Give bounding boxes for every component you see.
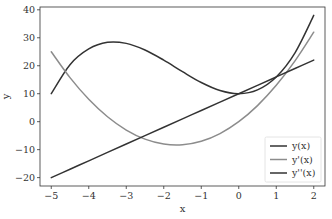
x-axis-ticks: −5−4−3−2−1012 <box>44 186 317 201</box>
y-tick-label: 0 <box>29 116 35 127</box>
x-tick-label: −4 <box>82 190 96 201</box>
x-tick-label: 0 <box>236 190 242 201</box>
x-tick-label: 1 <box>273 190 279 201</box>
x-tick-label: −1 <box>194 190 208 201</box>
line-chart: −5−4−3−2−1012 −20−10010203040 x y y(x)y'… <box>0 0 332 219</box>
y-tick-label: 20 <box>23 60 35 71</box>
series-y-prime-line <box>51 32 314 145</box>
y-tick-label: 30 <box>23 32 35 43</box>
x-tick-label: −2 <box>157 190 171 201</box>
x-tick-label: 2 <box>311 190 317 201</box>
series-y-line <box>51 15 314 93</box>
x-axis-label: x <box>180 203 186 214</box>
y-tick-label: 10 <box>23 88 35 99</box>
y-tick-label: −10 <box>15 144 35 155</box>
y-tick-label: 40 <box>23 4 35 15</box>
legend-label: y'(x) <box>291 154 313 165</box>
y-tick-label: −20 <box>15 172 35 183</box>
x-tick-label: −3 <box>119 190 133 201</box>
legend: y(x)y'(x)y''(x) <box>265 137 321 182</box>
y-axis-label: y <box>0 93 11 100</box>
y-axis-ticks: −20−10010203040 <box>15 4 40 183</box>
legend-label: y(x) <box>291 140 310 151</box>
x-tick-label: −5 <box>44 190 58 201</box>
legend-label: y''(x) <box>291 167 315 178</box>
